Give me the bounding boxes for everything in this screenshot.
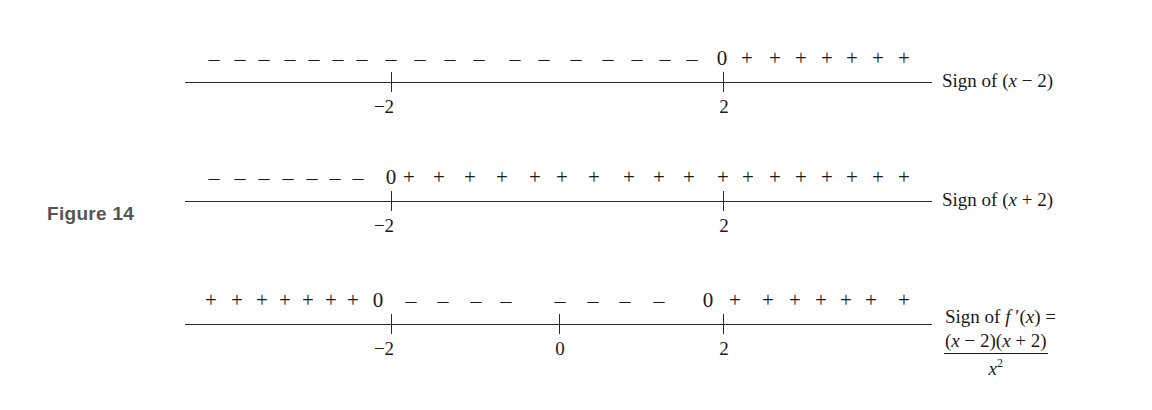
minus-sign: – [406, 290, 417, 312]
tick-label: 2 [719, 338, 729, 360]
plus-sign: + [347, 290, 359, 311]
num-var: x [1002, 330, 1010, 351]
label-var: x [1009, 70, 1017, 91]
plus-sign: + [403, 167, 415, 188]
plus-sign: + [840, 290, 852, 311]
plus-sign: + [795, 167, 807, 188]
plus-sign: + [846, 167, 858, 188]
label-text: ′( [1010, 306, 1025, 327]
plus-sign: + [496, 167, 508, 188]
minus-sign: – [333, 48, 344, 70]
label-text: Sign of ( [942, 189, 1009, 210]
plus-sign: + [769, 48, 781, 69]
zero-marker: 0 [373, 290, 384, 311]
fraction-denominator: x2 [944, 354, 1048, 380]
zero-marker: 0 [386, 167, 397, 188]
plus-sign: + [872, 48, 884, 69]
plus-sign: + [302, 290, 314, 311]
minus-sign: – [588, 290, 599, 312]
label-text: Sign of ( [942, 70, 1009, 91]
plus-sign: + [815, 290, 827, 311]
tick-mark [723, 191, 724, 211]
plus-sign: + [256, 290, 268, 311]
plus-sign: + [623, 167, 635, 188]
plus-sign: + [717, 167, 729, 188]
minus-sign: – [603, 48, 614, 70]
axis-line [185, 82, 932, 83]
row-label: Sign of f ′(x) = [945, 306, 1056, 328]
plus-sign: + [433, 167, 445, 188]
axis-line [185, 201, 932, 202]
label-var: x [1026, 306, 1034, 327]
minus-sign: – [386, 48, 397, 70]
label-var: x [1009, 189, 1017, 210]
minus-sign: – [415, 48, 426, 70]
minus-sign: – [285, 48, 296, 70]
plus-sign: + [325, 290, 337, 311]
zero-marker: 0 [717, 48, 728, 69]
minus-sign: – [474, 48, 485, 70]
tick-label: 2 [719, 215, 729, 237]
plus-sign: + [762, 290, 774, 311]
minus-sign: – [445, 48, 456, 70]
minus-sign: – [687, 48, 698, 70]
minus-sign: – [357, 48, 368, 70]
num-var: x [951, 330, 959, 351]
plus-sign: + [741, 48, 753, 69]
row-label: Sign of (x − 2) [942, 70, 1053, 92]
tick-label: 2 [719, 96, 729, 118]
plus-sign: + [588, 167, 600, 188]
plus-sign: + [872, 167, 884, 188]
minus-sign: – [620, 290, 631, 312]
num-text: + 2) [1011, 330, 1047, 351]
minus-sign: – [283, 167, 294, 189]
plus-sign: + [205, 290, 217, 311]
fraction-numerator: (x − 2)(x + 2) [944, 330, 1048, 354]
minus-sign: – [438, 290, 449, 312]
plus-sign: + [279, 290, 291, 311]
tick-label: −2 [374, 338, 394, 360]
plus-sign: + [795, 48, 807, 69]
minus-sign: – [471, 290, 482, 312]
figure-label: Figure 14 [47, 203, 134, 225]
minus-sign: – [209, 167, 220, 189]
tick-label: −2 [374, 96, 394, 118]
minus-sign: – [539, 48, 550, 70]
plus-sign: + [898, 290, 910, 311]
minus-sign: – [660, 48, 671, 70]
label-text: ) = [1034, 306, 1056, 327]
tick-mark [559, 314, 560, 334]
plus-sign: + [653, 167, 665, 188]
den-var: x [989, 358, 997, 379]
plus-sign: + [742, 167, 754, 188]
minus-sign: – [571, 48, 582, 70]
tick-mark [723, 314, 724, 334]
minus-sign: – [309, 48, 320, 70]
label-text: Sign of [945, 306, 1005, 327]
minus-sign: – [209, 48, 220, 70]
minus-sign: – [235, 167, 246, 189]
derivative-fraction: (x − 2)(x + 2) x2 [944, 330, 1048, 380]
minus-sign: – [632, 48, 643, 70]
num-text: − 2)( [960, 330, 1002, 351]
minus-sign: – [555, 290, 566, 312]
minus-sign: – [501, 290, 512, 312]
tick-label: −2 [374, 215, 394, 237]
tick-mark [723, 72, 724, 92]
tick-mark [391, 72, 392, 92]
plus-sign: + [789, 290, 801, 311]
label-text: − 2) [1017, 70, 1053, 91]
plus-sign: + [769, 167, 781, 188]
tick-label: 0 [555, 338, 565, 360]
plus-sign: + [231, 290, 243, 311]
den-exponent: 2 [997, 356, 1003, 370]
plus-sign: + [898, 48, 910, 69]
plus-sign: + [683, 167, 695, 188]
plus-sign: + [464, 167, 476, 188]
minus-sign: – [235, 48, 246, 70]
minus-sign: – [330, 167, 341, 189]
row-label: Sign of (x + 2) [942, 189, 1053, 211]
plus-sign: + [529, 167, 541, 188]
plus-sign: + [729, 290, 741, 311]
minus-sign: – [510, 48, 521, 70]
